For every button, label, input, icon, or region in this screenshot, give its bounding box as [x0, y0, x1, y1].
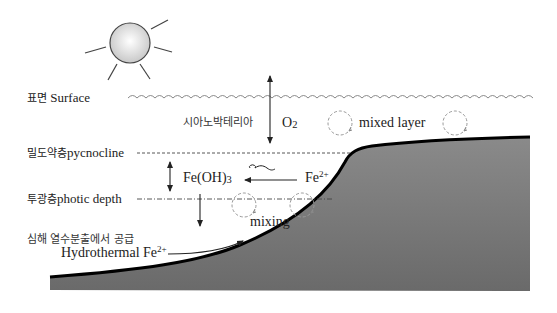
- circular-arrow-icon: [443, 111, 467, 135]
- pycnocline-label: 밀도약층pycnocline: [27, 146, 124, 159]
- sun-icon: [85, 20, 172, 80]
- mixed-layer-label: mixed layer: [359, 116, 425, 130]
- photic-depth-label: 투광층photic depth: [27, 192, 122, 205]
- squiggle-icon: [250, 165, 275, 170]
- feoh3-label: Fe(OH)3: [183, 171, 232, 185]
- mixing-label: mixing: [250, 215, 290, 229]
- surface-label: 표면 Surface: [27, 91, 90, 104]
- hydrothermal-label: Hydrothermal Fe2+: [61, 246, 167, 260]
- ocean-iron-cycle-diagram: 표면 Surface 시아노박테리아 O2 mixed layer 밀도약층py…: [0, 0, 557, 313]
- o2-label: O2: [282, 116, 297, 130]
- cyanobacteria-label: 시아노박테리아: [183, 117, 253, 128]
- seafloor-shape: [50, 137, 530, 291]
- circular-arrow-icon: [328, 111, 352, 135]
- hydrothermal-korean-label: 심해 열수분출에서 공급: [27, 234, 134, 245]
- wave-surface-icon: [128, 96, 533, 99]
- fe2-label: Fe2+: [305, 171, 329, 185]
